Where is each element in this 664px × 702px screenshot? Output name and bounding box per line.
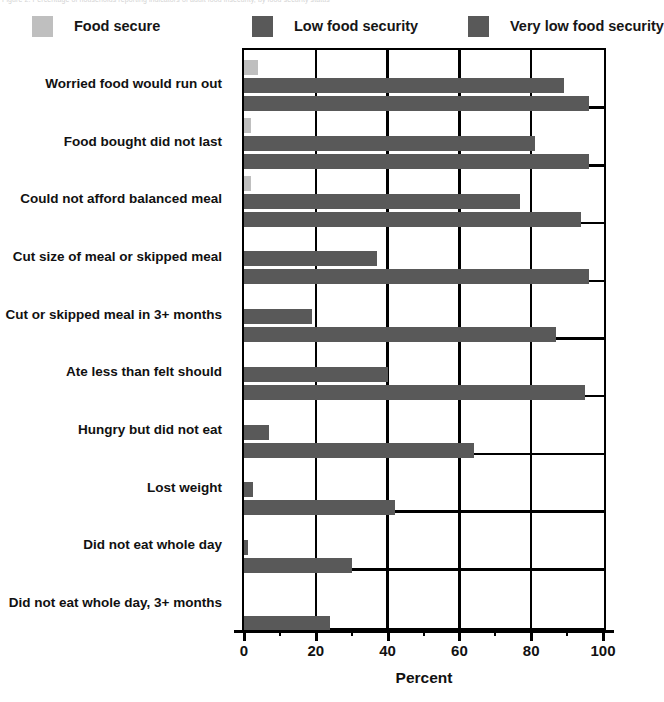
bar-9-2 xyxy=(244,616,330,631)
bar-7-2 xyxy=(244,500,395,515)
bar-1-1 xyxy=(244,136,535,151)
category-label-3: Cut size of meal or skipped meal xyxy=(0,250,232,264)
x-tick-minor-50 xyxy=(423,630,425,636)
category-label-0: Worried food would run out xyxy=(0,77,232,91)
x-tick-minor-30 xyxy=(351,630,353,636)
x-axis-title: Percent xyxy=(242,669,606,687)
bar-8-2 xyxy=(244,558,352,573)
category-label-9: Did not eat whole day, 3+ months xyxy=(0,596,232,610)
bar-2-0 xyxy=(244,176,251,191)
category-label-5: Ate less than felt should xyxy=(0,365,232,379)
bar-7-1 xyxy=(244,482,253,497)
category-label-8: Did not eat whole day xyxy=(0,538,232,552)
category-label-6: Hungry but did not eat xyxy=(0,423,232,437)
bar-0-2 xyxy=(244,96,589,111)
x-tick-major-100 xyxy=(602,630,605,641)
category-label-4: Cut or skipped meal in 3+ months xyxy=(0,308,232,322)
x-tick-major-0 xyxy=(243,630,246,641)
bar-4-2 xyxy=(244,327,556,342)
category-axis-labels: Worried food would run outFood bought di… xyxy=(0,0,234,702)
x-tick-label-60: 60 xyxy=(451,643,468,658)
x-axis: 020406080100 xyxy=(242,630,606,670)
x-tick-minor-70 xyxy=(494,630,496,636)
bar-5-2 xyxy=(244,385,585,400)
bar-6-2 xyxy=(244,443,474,458)
x-tick-label-0: 0 xyxy=(240,643,248,658)
x-tick-label-80: 80 xyxy=(523,643,540,658)
bar-2-1 xyxy=(244,194,520,209)
bar-3-2 xyxy=(244,269,589,284)
category-label-1: Food bought did not last xyxy=(0,135,232,149)
bar-1-2 xyxy=(244,154,589,169)
bar-3-1 xyxy=(244,251,377,266)
bar-4-1 xyxy=(244,309,312,324)
bar-0-1 xyxy=(244,78,564,93)
category-label-7: Lost weight xyxy=(0,481,232,495)
x-tick-label-20: 20 xyxy=(307,643,324,658)
bar-2-2 xyxy=(244,212,581,227)
category-label-2: Could not afford balanced meal xyxy=(0,192,232,206)
x-tick-label-100: 100 xyxy=(590,643,615,658)
plot-area xyxy=(242,48,606,630)
bar-8-1 xyxy=(244,540,248,555)
x-tick-major-20 xyxy=(315,630,318,641)
bar-1-0 xyxy=(244,118,251,133)
x-tick-major-40 xyxy=(387,630,390,641)
x-tick-minor-10 xyxy=(279,630,281,636)
x-tick-minor-90 xyxy=(566,630,568,636)
x-tick-major-80 xyxy=(530,630,533,641)
x-tick-major-60 xyxy=(458,630,461,641)
bar-0-0 xyxy=(244,60,258,75)
bar-5-1 xyxy=(244,367,388,382)
bar-6-1 xyxy=(244,425,269,440)
x-tick-label-40: 40 xyxy=(379,643,396,658)
